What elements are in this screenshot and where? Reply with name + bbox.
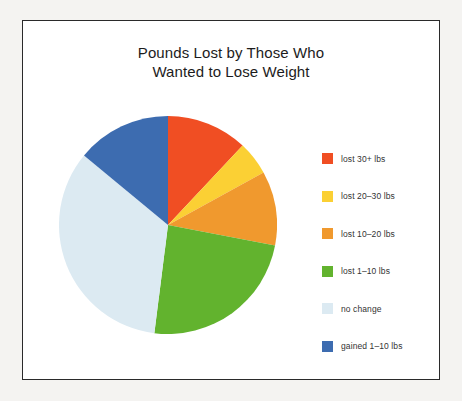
legend-item-label: no change	[341, 304, 382, 314]
legend-item[interactable]: lost 20–30 lbs	[322, 178, 432, 216]
legend-item-label: lost 10–20 lbs	[341, 229, 395, 239]
legend-item-label: lost 20–30 lbs	[341, 191, 395, 201]
legend-swatch-icon	[322, 341, 333, 352]
chart-title-line-2: Wanted to Lose Weight	[23, 62, 439, 81]
pie-chart	[59, 116, 277, 334]
legend-item-label: lost 1–10 lbs	[341, 266, 390, 276]
legend-swatch-icon	[322, 191, 333, 202]
legend-item[interactable]: gained 1–10 lbs	[322, 328, 432, 366]
pie-chart-svg	[59, 116, 277, 334]
legend-item[interactable]: lost 1–10 lbs	[322, 253, 432, 291]
legend-swatch-icon	[322, 228, 333, 239]
chart-title: Pounds Lost by Those Who Wanted to Lose …	[23, 43, 439, 81]
chart-frame: Pounds Lost by Those Who Wanted to Lose …	[22, 20, 440, 380]
legend-item[interactable]: lost 30+ lbs	[322, 140, 432, 178]
chart-title-line-1: Pounds Lost by Those Who	[23, 43, 439, 62]
legend-item-label: gained 1–10 lbs	[341, 341, 403, 351]
legend-item-label: lost 30+ lbs	[341, 154, 385, 164]
pie-slice-group	[59, 116, 277, 334]
legend-swatch-icon	[322, 153, 333, 164]
legend-swatch-icon	[322, 303, 333, 314]
legend-item[interactable]: no change	[322, 290, 432, 328]
legend-item[interactable]: lost 10–20 lbs	[322, 215, 432, 253]
chart-legend: lost 30+ lbs lost 20–30 lbs lost 10–20 l…	[322, 140, 432, 365]
legend-swatch-icon	[322, 266, 333, 277]
